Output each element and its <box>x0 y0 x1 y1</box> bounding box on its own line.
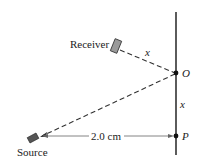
source-p-distance-label: 2.0 cm <box>91 130 121 142</box>
baseline-arrow-right <box>168 134 174 138</box>
point-p-label: P <box>181 130 189 142</box>
source-label: Source <box>17 146 48 158</box>
source-path <box>42 74 175 136</box>
interference-diagram: Receiver x O x P 2.0 cm Source <box>0 0 197 162</box>
point-p-dot <box>174 134 179 139</box>
receiver-label: Receiver <box>70 38 109 50</box>
point-o-dot <box>174 71 179 76</box>
receiver-distance-label: x <box>144 46 150 58</box>
receiver-icon <box>110 39 121 54</box>
source-icon <box>27 133 39 143</box>
point-o-label: O <box>182 67 190 79</box>
op-distance-label: x <box>179 98 185 110</box>
